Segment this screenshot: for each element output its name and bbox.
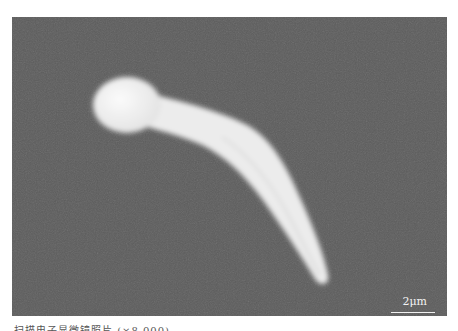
specimen-shape — [12, 17, 447, 316]
scale-bar-label: 2μm — [402, 295, 427, 308]
scale-bar — [391, 312, 435, 313]
micrograph-image: 2μm — [12, 17, 447, 316]
figure-caption: 扫描电子显微镜照片 (×8,000) — [14, 322, 170, 331]
